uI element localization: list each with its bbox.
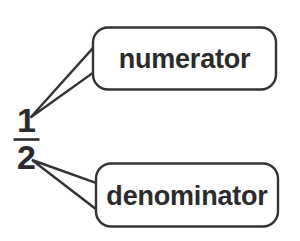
fraction-numerator-digit: 1 <box>17 101 36 139</box>
fraction-denominator-digit: 2 <box>17 138 36 176</box>
denominator-callout-box[interactable]: denominator <box>96 164 278 227</box>
diagram-canvas: numerator denominator 1 2 <box>0 0 300 241</box>
denominator-callout-tail <box>32 160 97 210</box>
fraction: 1 2 <box>14 101 40 176</box>
numerator-callout-box[interactable]: numerator <box>93 28 276 90</box>
numerator-callout-label: numerator <box>119 44 251 74</box>
denominator-callout-label: denominator <box>106 181 268 211</box>
numerator-callout-tail <box>31 48 94 118</box>
fraction-annotation-diagram: numerator denominator 1 2 <box>0 0 300 241</box>
